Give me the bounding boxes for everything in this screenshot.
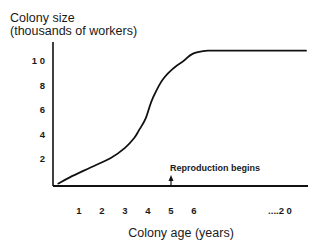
x-axis-title: Colony age (years) (0, 226, 324, 240)
x-tick-label: 1 (76, 205, 82, 216)
x-tick-label: 5 (168, 205, 174, 216)
x-tick-label: 4 (145, 205, 151, 216)
y-tick-label: 2 (40, 153, 45, 164)
x-tick-label: 6 (191, 205, 196, 216)
y-tick-label: 4 (40, 129, 46, 140)
y-tick-label: 8 (40, 80, 45, 91)
annotation-label: Reproduction begins (170, 163, 260, 173)
chart-plot: 24681 0 123456....2 0 Reproduction begin… (0, 0, 324, 248)
arrow-up-icon (169, 175, 174, 181)
x-tick-label: 3 (122, 205, 127, 216)
y-tick-label: 1 0 (32, 55, 45, 66)
y-tick-label: 6 (40, 104, 45, 115)
x-tick-label: 2 (99, 205, 104, 216)
x-tick-label: ....2 0 (268, 205, 292, 216)
